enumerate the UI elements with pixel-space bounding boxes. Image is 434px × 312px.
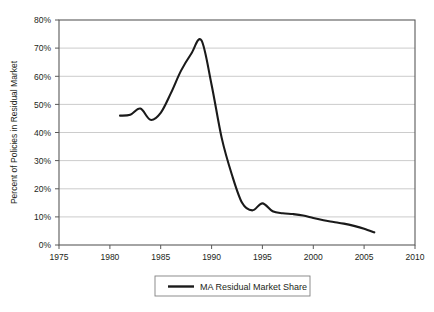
y-tick-label-60: 60% bbox=[34, 72, 51, 82]
y-tick-label-80: 80% bbox=[34, 15, 51, 25]
y-tick-label-20: 20% bbox=[34, 184, 51, 194]
legend-label-ma-residual-market-share: MA Residual Market Share bbox=[200, 282, 307, 292]
y-tick-label-10: 10% bbox=[34, 212, 51, 222]
y-tick-label-70: 70% bbox=[34, 43, 51, 53]
legend: MA Residual Market Share bbox=[155, 276, 310, 296]
y-tick-label-40: 40% bbox=[34, 128, 51, 138]
y-tick-label-50: 50% bbox=[34, 100, 51, 110]
y-tick-label-0: 0% bbox=[39, 240, 52, 250]
y-axis-title: Percent of Policies in Residual Market bbox=[9, 60, 19, 204]
x-tick-label-1990: 1990 bbox=[202, 252, 221, 262]
x-tick-label-1985: 1985 bbox=[151, 252, 170, 262]
x-tick-label-1995: 1995 bbox=[253, 252, 272, 262]
residual-market-share-chart: 80% 70% 60% 50% 40% 30% 20% 10% 0% 1975 … bbox=[0, 0, 434, 312]
x-tick-label-2010: 2010 bbox=[406, 252, 425, 262]
chart-background bbox=[0, 0, 434, 312]
x-tick-label-2005: 2005 bbox=[355, 252, 374, 262]
x-tick-label-1980: 1980 bbox=[100, 252, 119, 262]
x-tick-label-1975: 1975 bbox=[50, 252, 69, 262]
y-tick-labels: 80% 70% 60% 50% 40% 30% 20% 10% 0% bbox=[34, 15, 51, 250]
y-tick-label-30: 30% bbox=[34, 156, 51, 166]
x-tick-label-2000: 2000 bbox=[304, 252, 323, 262]
